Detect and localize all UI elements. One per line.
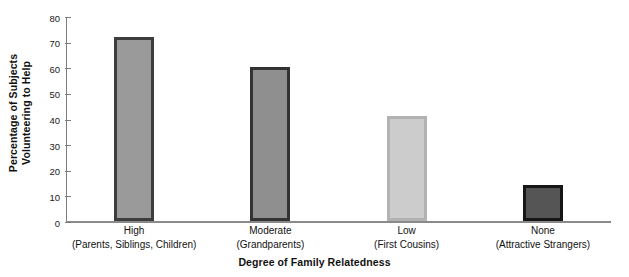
x-axis-category-labels: High(Parents, Siblings, Children)Moderat…	[66, 224, 611, 254]
y-tick-mark	[65, 171, 71, 172]
y-tick-label: 10	[49, 191, 60, 202]
category-label-low: Low(First Cousins)	[339, 224, 475, 251]
y-tick-0: 0	[66, 222, 74, 223]
y-axis-title-line-2: Volunteering to Help	[20, 53, 33, 171]
y-tick-mark	[65, 196, 71, 197]
category-label-main: None	[475, 224, 611, 238]
y-tick-mark	[65, 120, 71, 121]
bar-chart-figure: Percentage of Subjects Volunteering to H…	[0, 0, 629, 277]
y-tick-80: 80	[66, 17, 74, 18]
y-tick-20: 20	[66, 171, 74, 172]
bar-high	[114, 37, 154, 222]
category-label-main: Moderate	[202, 224, 338, 238]
x-axis-title: Degree of Family Relatedness	[0, 256, 629, 268]
y-tick-mark	[65, 145, 71, 146]
y-tick-label: 30	[49, 140, 60, 151]
y-tick-label: 0	[55, 217, 60, 228]
y-tick-label: 20	[49, 166, 60, 177]
y-tick-40: 40	[66, 120, 74, 121]
y-axis-title: Percentage of Subjects Volunteering to H…	[0, 0, 40, 225]
y-tick-10: 10	[66, 196, 74, 197]
y-tick-mark	[65, 43, 71, 44]
category-label-sub: (Grandparents)	[202, 238, 338, 252]
bar-low	[387, 116, 427, 221]
y-tick-label: 60	[49, 63, 60, 74]
x-axis-line	[66, 221, 611, 223]
y-tick-label: 50	[49, 89, 60, 100]
y-tick-mark	[65, 17, 71, 18]
category-label-sub: (Attractive Strangers)	[475, 238, 611, 252]
y-axis-title-line-1: Percentage of Subjects	[7, 53, 20, 171]
y-tick-70: 70	[66, 43, 74, 44]
y-tick-50: 50	[66, 94, 74, 95]
category-label-sub: (Parents, Siblings, Children)	[66, 238, 202, 252]
y-tick-mark	[65, 222, 71, 223]
plot-area: 01020304050607080	[66, 17, 611, 222]
y-tick-mark	[65, 94, 71, 95]
bar-moderate	[250, 67, 290, 221]
category-label-moderate: Moderate(Grandparents)	[202, 224, 338, 251]
y-tick-label: 40	[49, 115, 60, 126]
category-label-sub: (First Cousins)	[339, 238, 475, 252]
y-tick-label: 80	[49, 12, 60, 23]
category-label-main: High	[66, 224, 202, 238]
y-tick-30: 30	[66, 145, 74, 146]
category-label-none: None(Attractive Strangers)	[475, 224, 611, 251]
category-label-high: High(Parents, Siblings, Children)	[66, 224, 202, 251]
y-tick-label: 70	[49, 38, 60, 49]
y-tick-60: 60	[66, 68, 74, 69]
y-tick-mark	[65, 68, 71, 69]
bar-none	[523, 185, 563, 221]
category-label-main: Low	[339, 224, 475, 238]
